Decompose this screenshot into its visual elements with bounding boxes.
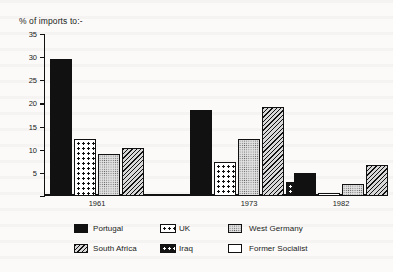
legend-label-iraq: Iraq	[179, 244, 223, 253]
bar-portugal-1982	[294, 173, 316, 196]
legend-swatch-iraq	[160, 244, 176, 253]
y-tick-mark	[40, 103, 45, 104]
bar-south-africa-1961	[122, 148, 144, 196]
y-tick-label: 10	[29, 145, 37, 154]
chart-legend: PortugalUKWest GermanySouth AfricaIraqFo…	[74, 219, 308, 257]
bar-uk-1973	[214, 162, 236, 196]
x-category-1982: 1982	[333, 199, 350, 208]
y-tick-mark	[40, 127, 45, 128]
legend-label-portugal: Portugal	[93, 224, 155, 233]
bar-portugal-1973	[190, 110, 212, 196]
y-tick-mark	[40, 34, 45, 35]
bar-uk-1982	[318, 193, 340, 196]
legend-swatch-former-socialist	[228, 244, 242, 253]
y-tick-mark	[40, 173, 45, 174]
legend-label-west-germany: West Germany	[249, 224, 308, 233]
x-category-1961: 1961	[89, 199, 106, 208]
y-tick-label: 35	[29, 30, 37, 39]
y-tick-mark	[40, 57, 45, 58]
y-tick-label: 5	[33, 168, 37, 177]
bar-portugal-1961	[50, 59, 72, 196]
legend-label-uk: UK	[179, 224, 223, 233]
bar-west-germany-1961	[98, 154, 120, 196]
chart-title: % of imports to:-	[19, 16, 83, 26]
y-tick-label: 25	[29, 76, 37, 85]
legend-swatch-west-germany	[228, 224, 242, 233]
y-tick-mark	[40, 80, 45, 81]
y-tick-label: 30	[29, 53, 37, 62]
bar-south-africa-1982	[366, 165, 388, 196]
legend-swatch-portugal	[74, 224, 88, 233]
y-tick-label: 15	[29, 122, 37, 131]
legend-label-former-socialist: Former Socialist	[249, 244, 308, 253]
bar-west-germany-1982	[342, 184, 364, 196]
y-tick-label: 20	[29, 99, 37, 108]
bar-south-africa-1973	[262, 107, 284, 196]
legend-swatch-south-africa	[74, 244, 88, 253]
scanned-page: % of imports to:- 5101520253035 19611973…	[0, 0, 393, 272]
bar-uk-1961	[74, 139, 96, 196]
legend-label-south-africa: South Africa	[93, 244, 155, 253]
legend-swatch-uk	[160, 224, 176, 233]
y-tick-mark	[40, 196, 45, 197]
plot-area: 5101520253035 196119731982	[44, 34, 382, 196]
x-category-1973: 1973	[241, 199, 258, 208]
y-tick-mark	[40, 150, 45, 151]
bar-west-germany-1973	[238, 139, 260, 196]
